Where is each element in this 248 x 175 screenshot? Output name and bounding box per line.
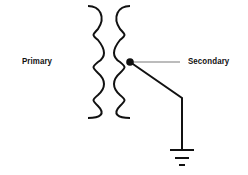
primary-label: Primary <box>22 56 52 66</box>
ground-icon <box>170 150 194 165</box>
transformer-diagram <box>0 0 248 175</box>
tap-wire <box>130 62 182 150</box>
center-tap <box>126 58 182 150</box>
secondary-label: Secondary <box>188 56 229 66</box>
